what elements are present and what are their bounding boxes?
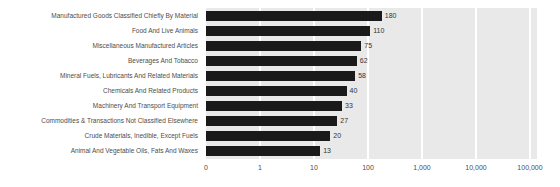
x-tick-label: 1,000: [413, 162, 431, 174]
category-label: Manufactured Goods Classified Chiefly By…: [0, 11, 202, 21]
bar-value-label: 33: [345, 101, 353, 111]
category-label: Commodities & Transactions Not Classifie…: [0, 116, 202, 126]
x-tick-label: 10: [310, 162, 318, 174]
bar[interactable]: [206, 71, 355, 81]
bar[interactable]: [206, 56, 357, 66]
bar-value-label: 13: [323, 146, 331, 156]
bar[interactable]: [206, 11, 382, 21]
bar-value-label: 62: [360, 56, 368, 66]
category-label: Beverages And Tobacco: [0, 56, 202, 66]
category-label: Crude Materials, Inedible, Except Fuels: [0, 131, 202, 141]
bar-value-label: 110: [373, 26, 384, 36]
gridline: [421, 8, 423, 159]
category-label: Miscellaneous Manufactured Articles: [0, 41, 202, 51]
category-axis-labels: Manufactured Goods Classified Chiefly By…: [0, 8, 202, 159]
bar-value-label: 75: [364, 41, 372, 51]
category-label: Mineral Fuels, Lubricants And Related Ma…: [0, 71, 202, 81]
category-label: Food And Live Animals: [0, 26, 202, 36]
bar[interactable]: [206, 101, 342, 111]
bar[interactable]: [206, 116, 337, 126]
bar[interactable]: [206, 26, 370, 36]
bar[interactable]: [206, 146, 320, 156]
x-tick-label: 100,000: [517, 162, 542, 174]
x-tick-label: 100: [362, 162, 374, 174]
bar-chart: Manufactured Goods Classified Chiefly By…: [0, 0, 560, 187]
category-label: Chemicals And Related Products: [0, 86, 202, 96]
plot-area: 1801107562584033272013: [206, 8, 537, 159]
bar[interactable]: [206, 86, 347, 96]
bar-value-label: 180: [385, 11, 397, 21]
bar-value-label: 40: [350, 86, 358, 96]
gridline: [529, 8, 531, 159]
bar-value-label: 27: [340, 116, 348, 126]
x-tick-label: 10,000: [465, 162, 486, 174]
bar-value-label: 58: [358, 71, 366, 81]
bar[interactable]: [206, 41, 361, 51]
x-tick-label: 0: [204, 162, 208, 174]
category-label: Machinery And Transport Equipment: [0, 101, 202, 111]
bar[interactable]: [206, 131, 330, 141]
x-tick-label: 1: [258, 162, 262, 174]
x-axis-tick-labels: 01101001,00010,000100,000: [0, 162, 560, 176]
category-label: Animal And Vegetable Oils, Fats And Waxe…: [0, 146, 202, 156]
bar-value-label: 20: [333, 131, 341, 141]
gridline: [475, 8, 477, 159]
